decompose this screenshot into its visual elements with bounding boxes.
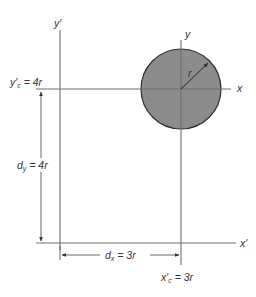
centroid-x-axis-label: x (236, 82, 243, 94)
dx-label: dx = 3r (105, 249, 136, 262)
xc-label: x′c = 3r (160, 271, 194, 284)
dy-label: dy = 4r (17, 159, 48, 173)
centroid-y-axis-label: y (184, 28, 191, 40)
y-prime-axis-label: y′ (53, 17, 62, 29)
parallel-axis-diagram: y′ x′ x y r y′c = 4r dy = 4r dx = 3r x′c… (0, 0, 256, 297)
x-prime-axis-label: x′ (239, 237, 248, 249)
radius-label: r (188, 67, 192, 79)
yc-label: y′c = 4r (9, 76, 43, 89)
